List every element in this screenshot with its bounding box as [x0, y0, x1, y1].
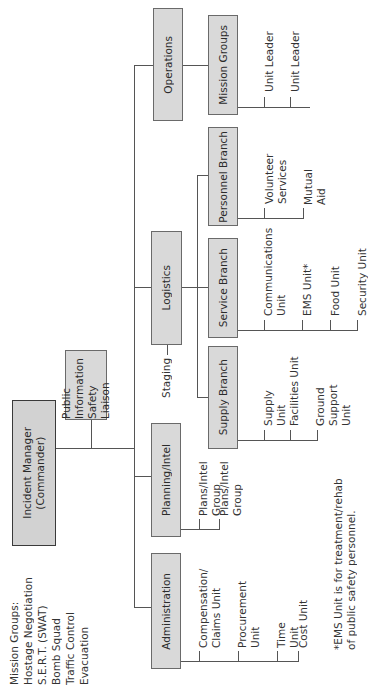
connector — [264, 320, 265, 330]
connector — [91, 420, 92, 448]
trunk-line — [134, 65, 135, 608]
unit-label: Volunteer Services — [263, 150, 289, 204]
command-staff-label: Public Information Safety Liaison — [60, 351, 112, 419]
connector — [290, 97, 291, 107]
supply-branch-label: Supply Branch — [217, 359, 230, 435]
unit-label: Security Unit — [356, 248, 369, 316]
connector — [167, 345, 168, 355]
unit-label: EMS Unit* — [301, 262, 314, 316]
connector — [181, 529, 220, 530]
unit-label: Mutual Aid — [302, 165, 328, 205]
personnel-branch-label: Personnel Branch — [217, 131, 230, 223]
connector — [181, 661, 299, 662]
mission-group-item: Bomb Squad — [50, 555, 63, 685]
connector — [317, 430, 318, 440]
mission-group-item: Traffic Control — [64, 555, 77, 685]
mission-group-item: Evacuation — [78, 555, 91, 685]
mission-group-item: S.E.R.T. (SWAT) — [36, 555, 49, 685]
connector — [298, 651, 299, 661]
connector — [290, 430, 291, 440]
operations-box: Operations — [153, 8, 183, 121]
connector — [264, 430, 265, 440]
service-branch-label: Service Branch — [217, 248, 230, 327]
connector — [219, 519, 220, 529]
connector — [238, 651, 239, 661]
connector — [199, 519, 200, 529]
connector — [238, 440, 318, 441]
connector — [264, 97, 265, 107]
supply-branch-box: Supply Branch — [208, 346, 238, 449]
mission-groups-label: Mission Groups — [217, 25, 230, 105]
connector — [199, 651, 200, 661]
planning-intel-box: Planning/Intel — [151, 423, 181, 537]
unit-label: Food Unit — [329, 262, 342, 316]
unit-label: Communications Unit — [262, 230, 288, 316]
unit-label: Unit Leader — [289, 30, 302, 92]
incident-manager-box: Incident Manager (Commander) — [12, 400, 56, 546]
service-branch-box: Service Branch — [208, 238, 238, 338]
incident-manager-label: Incident Manager (Commander) — [21, 427, 47, 519]
planning-intel-label: Planning/Intel — [160, 444, 173, 516]
connector — [197, 287, 208, 288]
logistics-box: Logistics — [151, 231, 182, 345]
connector — [330, 320, 331, 330]
connector — [238, 107, 310, 108]
connector — [134, 476, 151, 477]
connector — [238, 218, 304, 219]
operations-label: Operations — [162, 36, 175, 94]
mission-group-item: Hostage Negotiation — [22, 555, 35, 685]
logistics-label: Logistics — [160, 265, 173, 310]
unit-label: Compensation/ Claims Unit — [197, 570, 223, 648]
connector — [197, 397, 208, 398]
personnel-branch-box: Personnel Branch — [208, 127, 238, 226]
unit-label: Procurement Unit — [236, 580, 262, 648]
connector — [134, 65, 153, 66]
connector — [302, 320, 303, 330]
connector — [56, 448, 134, 449]
staging-label: Staging — [160, 358, 173, 398]
connector — [197, 175, 208, 176]
connector — [134, 287, 151, 288]
unit-label: Facilities Unit — [288, 356, 301, 426]
connector — [264, 208, 265, 218]
administration-label: Administration — [160, 573, 173, 650]
unit-label: Cost Unit — [297, 598, 310, 648]
mission-groups-heading: Mission Groups: — [8, 595, 21, 685]
connector — [134, 607, 151, 608]
administration-box: Administration — [151, 553, 181, 669]
connector — [183, 65, 208, 66]
connector — [277, 651, 278, 661]
unit-label: Supply Unit — [262, 366, 288, 426]
command-staff-box: Public Information Safety Liaison — [65, 350, 107, 420]
mission-groups-list: Hostage Negotiation S.E.R.T. (SWAT) Bomb… — [22, 555, 92, 685]
footnote: *EMS Unit is for treatment/rehab of publ… — [332, 470, 358, 650]
unit-label: Unit Leader — [263, 30, 276, 92]
connector — [303, 208, 304, 218]
unit-label: Plans/Intel Group — [218, 458, 244, 516]
connector — [357, 320, 358, 330]
connector — [238, 330, 358, 331]
unit-label: Ground Support Unit — [314, 344, 353, 426]
connector — [182, 287, 198, 288]
mission-groups-box: Mission Groups — [208, 15, 238, 115]
